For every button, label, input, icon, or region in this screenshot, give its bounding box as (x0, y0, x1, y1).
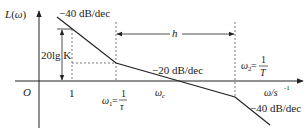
svg-text:=: = (251, 60, 257, 71)
gain-label: 20lg K (41, 49, 71, 61)
slope-middle-label: −20 dB/dec (152, 64, 203, 76)
svg-text:c: c (162, 92, 166, 100)
tick-one-label: 1 (69, 87, 75, 99)
svg-text:1: 1 (121, 88, 126, 99)
omega1-label: ω 1 = 1 τ (102, 88, 127, 112)
y-axis-label: L(ω) (4, 8, 27, 21)
slope-last-label: −40 dB/dec (250, 102, 301, 114)
svg-text:ω: ω (102, 95, 109, 106)
svg-text:T: T (260, 67, 267, 78)
origin-label: O (23, 86, 31, 98)
svg-text:1: 1 (261, 54, 266, 65)
svg-text:=: = (112, 95, 118, 106)
svg-text:ω: ω (241, 60, 248, 71)
x-axis-label: ω/s -1 (264, 84, 290, 98)
omega2-label: ω 2 = 1 T (241, 54, 268, 78)
omegac-label: ω c (155, 87, 166, 100)
slope-first-label: −40 dB/dec (59, 7, 110, 19)
svg-text:ω/s: ω/s (264, 87, 278, 98)
bode-diagram: L(ω) −40 dB/dec 20lg K h −20 dB/dec −40 … (0, 0, 308, 140)
svg-text:τ: τ (120, 101, 124, 112)
span-label: h (172, 27, 178, 39)
svg-text:ω: ω (155, 87, 162, 98)
svg-text:-1: -1 (284, 84, 290, 92)
